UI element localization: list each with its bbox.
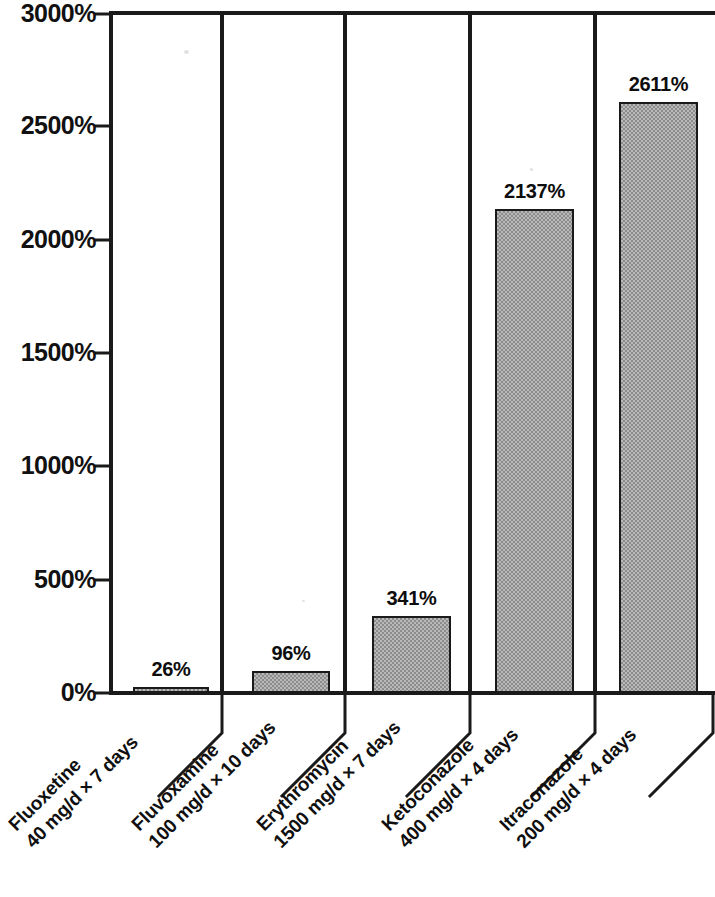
leader-line-5 [650,694,713,796]
bar-value-label-erythromycin: 341% [372,588,451,608]
y-tick-label-3000: 3000% [21,1,96,26]
bar-fluvoxamine [252,671,330,693]
bar-value-label-fluoxetine: 26% [133,659,209,679]
bar-fluoxetine [133,687,209,693]
bar-erythromycin [372,616,451,693]
bar-itraconazole [619,102,698,693]
bar-value-label-fluvoxamine: 96% [252,643,330,663]
bar-value-label-itraconazole: 2611% [611,74,706,94]
y-axis-ticks [94,14,111,693]
y-tick-label-2500: 2500% [21,113,96,138]
y-tick-label-2000: 2000% [21,227,96,252]
y-tick-label-500: 500% [34,567,96,592]
bar-value-label-ketoconazole: 2137% [487,181,582,201]
y-tick-label-0: 0% [61,680,96,705]
y-tick-label-1500: 1500% [21,340,96,365]
bar-ketoconazole [495,209,574,693]
bar-chart: 3000% 2500% 2000% 1500% 1000% 500% 0% 26… [0,0,715,897]
y-tick-label-1000: 1000% [21,453,96,478]
